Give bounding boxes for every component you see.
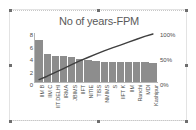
resize-handle-bottom-center[interactable]	[97, 120, 100, 123]
worksheet-canvas: No of years-FPM 02468 0%50%100% IIM BIIM…	[0, 0, 196, 130]
resize-handle-bottom-right[interactable]	[185, 120, 188, 123]
chart-title[interactable]: No of years-FPM	[10, 15, 188, 27]
category-label-cell: IIM	[125, 85, 133, 119]
value-axis-tick: 4	[20, 57, 33, 63]
resize-handle-top-center[interactable]	[97, 9, 100, 12]
category-label-cell: TISS	[92, 85, 100, 119]
percent-axis-right[interactable]: 0%50%100%	[160, 30, 186, 86]
category-label-cell: IRMA	[59, 85, 67, 119]
value-axis-tick: 0	[20, 82, 33, 88]
category-label-cell: Kashipur	[149, 85, 157, 119]
percent-axis-tick: 100%	[160, 32, 186, 38]
cumulative-line-series[interactable]	[35, 28, 157, 82]
value-axis-tick: 2	[20, 70, 33, 76]
value-axis-tick: 6	[20, 45, 33, 51]
resize-handle-top-left[interactable]	[9, 9, 12, 12]
category-label: Kashipur	[153, 85, 159, 106]
category-axis-labels[interactable]: IIM BIIM CIIT DELHIIRMAJBIMSIIFTNITIETIS…	[35, 85, 157, 119]
category-label-cell: IIFT K	[116, 85, 124, 119]
category-label-cell: Ranchi	[133, 85, 141, 119]
category-label-cell: NMIMS	[100, 85, 108, 119]
resize-handle-bottom-left[interactable]	[9, 120, 12, 123]
category-label-cell: JBIMS	[68, 85, 76, 119]
resize-handle-middle-left[interactable]	[9, 64, 12, 67]
value-axis-left[interactable]: 02468	[20, 30, 33, 86]
category-label-cell: S	[108, 85, 116, 119]
category-label-cell: MDI	[141, 85, 149, 119]
category-label-cell: IIM C	[43, 85, 51, 119]
category-label-cell: IIM B	[35, 85, 43, 119]
plot-area[interactable]	[35, 34, 157, 82]
value-axis-tick: 8	[20, 32, 33, 38]
percent-axis-tick: 0%	[160, 82, 186, 88]
percent-axis-tick: 50%	[160, 57, 186, 63]
chart-object[interactable]: No of years-FPM 02468 0%50%100% IIM BIIM…	[9, 9, 187, 121]
resize-handle-top-right[interactable]	[185, 9, 188, 12]
category-label-cell: NITIE	[84, 85, 92, 119]
cumulative-line-path	[39, 34, 153, 80]
category-axis-line	[34, 82, 158, 83]
category-label-cell: IIT DELHI	[51, 85, 59, 119]
category-label-cell: IIFT	[76, 85, 84, 119]
